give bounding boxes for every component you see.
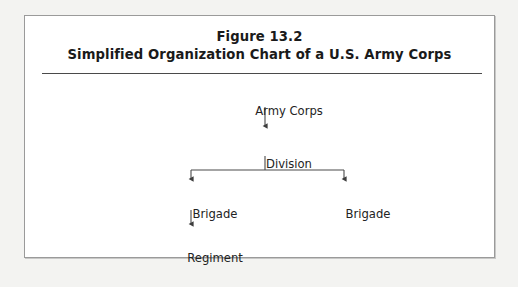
node-regiment: Regiment <box>187 251 243 265</box>
figure-page: Figure 13.2 Simplified Organization Char… <box>0 0 518 287</box>
node-brigade-left: Brigade <box>193 207 238 221</box>
node-army-corps: Army Corps <box>255 104 323 118</box>
node-brigade-right: Brigade <box>346 207 391 221</box>
org-chart-connectors <box>25 16 496 259</box>
figure-panel: Figure 13.2 Simplified Organization Char… <box>24 15 495 258</box>
node-division: Division <box>266 157 312 171</box>
org-chart: Army Corps Division Brigade Brigade Regi… <box>25 16 494 257</box>
